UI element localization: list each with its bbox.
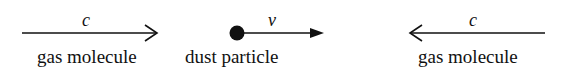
dust-velocity-label: v <box>268 11 276 29</box>
right-velocity-label: c <box>469 11 477 29</box>
left-velocity-label: c <box>82 11 90 29</box>
dust-velocity-arrow <box>243 28 324 38</box>
dust-particle-dot <box>230 26 245 41</box>
right-velocity-arrow <box>410 25 545 41</box>
right-molecule-label: gas molecule <box>418 47 518 66</box>
dust-particle-label: dust particle <box>185 47 278 66</box>
left-molecule-label: gas molecule <box>37 47 137 66</box>
